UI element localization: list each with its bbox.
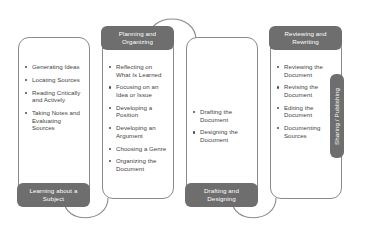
- list-item: Focusing on an Idea or Issue: [106, 83, 168, 98]
- list-item: Reading Critically and Actively: [22, 89, 84, 104]
- task-list: Reflecting on What Is Learned Focusing o…: [103, 38, 173, 178]
- list-item: Locating Sources: [22, 76, 84, 84]
- stage-badge-line-2: Designing: [207, 195, 235, 203]
- stage-badge-planning-and-organizing[interactable]: Planning and Organizing: [101, 26, 174, 50]
- stage-badge-sharing-publishing[interactable]: Sharing / Publishing: [330, 74, 344, 158]
- stage-badge-drafting-and-designing[interactable]: Drafting and Designing: [185, 183, 258, 207]
- list-item: Taking Notes and Evaluating Sources: [22, 109, 84, 132]
- list-item: Reflecting on What Is Learned: [106, 63, 168, 78]
- list-item: Revising the Document: [274, 83, 336, 98]
- list-item: Developing an Argument: [106, 124, 168, 139]
- list-item: Choosing a Genre: [106, 145, 168, 153]
- diagram-canvas: Generating Ideas Locating Sources Readin…: [0, 0, 371, 230]
- stage-badge-line-2: Organizing: [122, 38, 153, 46]
- stage-badge-reviewing-and-rewriting[interactable]: Reviewing and Rewriting: [269, 26, 342, 50]
- list-item: Generating Ideas: [22, 63, 84, 71]
- stage-badge-line-2: Subject: [43, 195, 64, 203]
- stage-badge-learning-about-a-subject[interactable]: Learning about a Subject: [17, 183, 90, 207]
- process-column-drafting: Drafting the Document Designing the Docu…: [186, 37, 258, 199]
- list-item: Reviewing the Document: [274, 63, 336, 78]
- task-list: Generating Ideas Locating Sources Readin…: [19, 38, 89, 137]
- list-item: Drafting the Document: [190, 108, 252, 123]
- stage-badge-line-1: Planning and: [119, 30, 156, 38]
- stage-badge-line-1: Drafting and: [204, 187, 239, 195]
- stage-badge-line-1: Reviewing and: [285, 30, 327, 38]
- stage-badge-label: Sharing / Publishing: [334, 87, 341, 144]
- list-item: Documenting Sources: [274, 124, 336, 139]
- list-item: Editing the Document: [274, 104, 336, 119]
- stage-badge-line-2: Rewriting: [292, 38, 319, 46]
- task-list: Drafting the Document Designing the Docu…: [187, 38, 257, 149]
- list-item: Organizing the Document: [106, 157, 168, 172]
- list-item: Designing the Document: [190, 128, 252, 143]
- list-item: Developing a Position: [106, 104, 168, 119]
- process-column-planning: Reflecting on What Is Learned Focusing o…: [102, 37, 174, 199]
- stage-badge-line-1: Learning about a: [29, 187, 77, 195]
- process-column-learning: Generating Ideas Locating Sources Readin…: [18, 37, 90, 199]
